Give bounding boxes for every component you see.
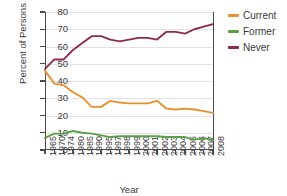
x-tick-mark bbox=[138, 150, 139, 154]
x-tick-mark bbox=[63, 150, 64, 154]
x-tick-mark bbox=[72, 150, 73, 154]
x-tick-mark bbox=[166, 150, 167, 154]
legend-label: Never bbox=[243, 40, 270, 56]
legend-label: Former bbox=[243, 24, 275, 40]
x-tick-mark bbox=[100, 150, 101, 154]
legend-item-former[interactable]: Former bbox=[228, 24, 287, 40]
x-tick-mark bbox=[82, 150, 83, 154]
data-series-layer bbox=[45, 12, 213, 150]
x-tick-mark bbox=[175, 150, 176, 154]
x-tick-mark bbox=[119, 150, 120, 154]
x-tick-label: 2008 bbox=[217, 136, 226, 156]
x-tick-mark bbox=[194, 150, 195, 154]
legend-swatch-current bbox=[228, 14, 239, 17]
x-tick-mark bbox=[91, 150, 92, 154]
series-line-current bbox=[45, 71, 213, 113]
legend-item-current[interactable]: Current bbox=[228, 8, 287, 24]
series-line-former bbox=[45, 131, 213, 140]
x-tick-mark bbox=[203, 150, 204, 154]
x-axis-title: Year bbox=[45, 184, 213, 195]
chart-legend: CurrentFormerNever bbox=[228, 8, 287, 56]
x-tick-mark bbox=[44, 150, 45, 154]
y-axis-title: Percent of Persons bbox=[17, 0, 28, 104]
x-tick-mark bbox=[184, 150, 185, 154]
x-tick-mark bbox=[128, 150, 129, 154]
x-tick-mark bbox=[156, 150, 157, 154]
legend-label: Current bbox=[243, 8, 276, 24]
series-line-never bbox=[45, 24, 213, 69]
plot-frame-right bbox=[213, 12, 214, 150]
x-tick-mark bbox=[147, 150, 148, 154]
x-tick-mark bbox=[110, 150, 111, 154]
x-tick-mark bbox=[54, 150, 55, 154]
x-tick-mark bbox=[212, 150, 213, 154]
legend-swatch-former bbox=[228, 30, 239, 33]
legend-swatch-never bbox=[228, 46, 239, 49]
line-chart: Percent of Persons 01020304050607080 196… bbox=[0, 0, 287, 196]
legend-item-never[interactable]: Never bbox=[228, 40, 287, 56]
